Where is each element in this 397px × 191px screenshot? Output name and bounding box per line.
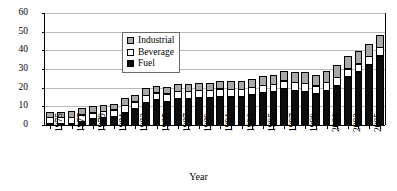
x-tick-label: 1995 [267,113,277,132]
x-tick-label: 1987 [182,113,192,132]
bar-segment-industrial [280,71,288,82]
x-tick-mark [188,126,189,129]
bar-segment-fuel [280,88,288,125]
x-tick-mark [305,126,306,129]
legend-item-beverage: Beverage [127,47,174,59]
x-tick-label: 1983 [139,113,149,132]
bar-segment-industrial [376,35,384,48]
bar-1981 [110,102,118,125]
plot-area: 0102030405060 19751977197919811983198519… [44,13,385,126]
bar-segment-fuel [259,92,267,125]
y-tick-label: 30 [8,64,28,73]
x-tick-mark [380,126,381,129]
y-tick-mark [42,125,45,126]
x-tick-mark [348,126,349,129]
bar-1987 [174,82,182,125]
x-tick-mark [146,126,147,129]
bar-series-group [45,13,385,125]
plot-right-border [385,13,386,125]
legend-label-fuel: Fuel [138,58,155,70]
x-tick-label: 1977 [76,113,86,132]
x-tick-mark [135,126,136,129]
bar-1977 [68,109,76,125]
legend-label-industrial: Industrial [138,35,174,47]
y-tick-label: 40 [8,45,28,54]
chart-figure: Billion liters 0102030405060 19751977197… [0,0,397,191]
bar-1993 [238,80,246,125]
y-tick-label: 50 [8,27,28,36]
x-tick-mark [50,126,51,129]
y-tick-label: 60 [8,8,28,17]
legend-item-fuel: Fuel [127,58,174,70]
y-tick-label: 10 [8,101,28,110]
x-tick-label: 1981 [118,113,128,132]
x-tick-mark [284,126,285,129]
x-tick-mark [252,126,253,129]
x-tick-mark [167,126,168,129]
x-tick-mark [231,126,232,129]
x-tick-mark [316,126,317,129]
bar-segment-industrial [365,44,373,57]
bar-segment-industrial [301,72,309,84]
bar-segment-industrial [344,56,352,70]
x-tick-label: 1993 [246,113,256,132]
bar-segment-fuel [89,119,97,126]
legend-swatch-beverage-icon [127,49,134,56]
x-tick-label: 1991 [224,113,234,132]
legend-label-beverage: Beverage [138,47,174,59]
x-tick-mark [61,126,62,129]
bar-segment-fuel [174,99,182,126]
x-tick-mark [337,126,338,129]
x-tick-mark [93,126,94,129]
x-tick-mark [103,126,104,129]
bar-segment-fuel [365,64,373,125]
x-tick-mark [178,126,179,129]
bar-segment-fuel [238,97,246,126]
x-tick-label: 2005 [373,113,383,132]
x-axis-title: Year [0,171,397,182]
bar-2003 [344,54,352,125]
bar-segment-industrial [312,75,320,87]
x-tick-label: 1989 [203,113,213,132]
bar-1995 [259,75,267,125]
bar-segment-fuel [323,90,331,125]
x-tick-label: 2001 [331,113,341,132]
legend-swatch-industrial-icon [127,37,134,44]
legend-swatch-fuel-icon [127,60,134,67]
bar-1979 [89,104,97,125]
legend-item-industrial: Industrial [127,35,174,47]
x-tick-mark [125,126,126,129]
x-tick-mark [369,126,370,129]
y-tick-label: 20 [8,83,28,92]
bar-segment-industrial [323,71,331,83]
bar-segment-fuel [153,100,161,126]
chart-legend: Industrial Beverage Fuel [122,32,180,73]
bar-2005 [365,43,373,126]
x-tick-mark [242,126,243,129]
bar-segment-industrial [333,65,341,78]
x-tick-mark [157,126,158,129]
x-tick-label: 1985 [161,113,171,132]
x-tick-mark [295,126,296,129]
x-tick-label: 1999 [309,113,319,132]
x-tick-mark [273,126,274,129]
x-tick-label: 1975 [54,113,64,132]
bar-1985 [153,84,161,125]
bar-1989 [195,81,203,125]
bar-2006 [376,33,384,125]
x-tick-label: 1997 [288,113,298,132]
bar-2001 [323,69,331,125]
x-tick-mark [220,126,221,129]
x-tick-label: 2003 [352,113,362,132]
x-tick-mark [210,126,211,129]
bar-1997 [280,69,288,125]
bar-segment-fuel [195,98,203,126]
x-tick-mark [72,126,73,129]
x-tick-mark [114,126,115,129]
bar-segment-industrial [355,51,363,64]
bar-segment-fuel [344,77,352,126]
bar-segment-fuel [110,116,118,125]
x-tick-mark [263,126,264,129]
x-tick-mark [82,126,83,129]
y-tick-label: 0 [8,120,28,129]
